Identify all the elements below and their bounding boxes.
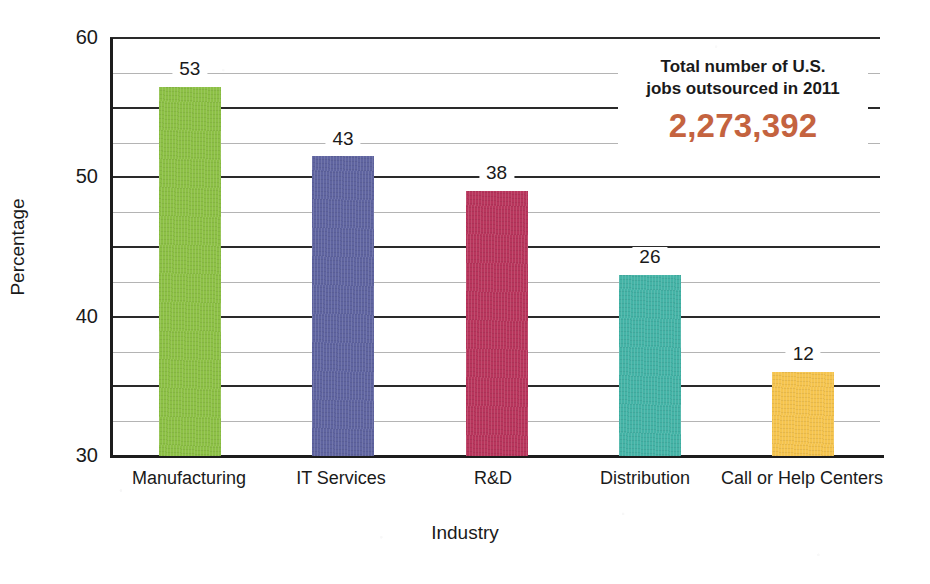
x-axis-tick-label: Call or Help Centers (721, 468, 883, 489)
total-jobs-annotation: Total number of U.S. jobs outsourced in … (618, 52, 868, 151)
x-axis-tick-label: R&D (417, 468, 569, 489)
y-axis-tick-label: 40 (76, 304, 98, 327)
y-axis-title: Percentage (7, 198, 29, 295)
y-axis-line (110, 38, 113, 456)
y-axis-tick-label: 60 (76, 26, 98, 49)
bar-value-label: 26 (632, 247, 667, 267)
bar[interactable] (312, 156, 374, 456)
x-axis-title: Industry (0, 522, 930, 544)
bar-value-label: 12 (786, 344, 821, 364)
bar-slot: 53 (113, 38, 266, 456)
bar-value-label: 38 (479, 163, 514, 183)
bar[interactable] (159, 87, 221, 456)
bar-texture (466, 191, 528, 456)
y-axis-tick-label: 50 (76, 165, 98, 188)
bar[interactable] (619, 275, 681, 456)
bar[interactable] (772, 372, 834, 456)
bar[interactable] (466, 191, 528, 456)
annotation-line-2: jobs outsourced in 2011 (624, 78, 862, 100)
x-axis-tick-label: Manufacturing (113, 468, 265, 489)
bar-texture (312, 156, 374, 456)
bar-value-label: 53 (172, 59, 207, 79)
x-axis-tick-labels: ManufacturingIT ServicesR&DDistributionC… (113, 468, 883, 489)
x-axis-tick-label: Distribution (569, 468, 721, 489)
bar-slot: 43 (266, 38, 419, 456)
annotation-total-value: 2,273,392 (624, 107, 862, 145)
bar-texture (159, 87, 221, 456)
annotation-line-1: Total number of U.S. (624, 56, 862, 78)
bar-value-label: 43 (326, 129, 361, 149)
x-axis-tick-label: IT Services (265, 468, 417, 489)
bar-chart-figure: Percentage 0102030405060 5343382612 Manu… (0, 0, 930, 584)
bar-texture (772, 372, 834, 456)
bar-texture (619, 275, 681, 456)
bar-slot: 38 (420, 38, 573, 456)
y-axis-tick-label: 30 (76, 444, 98, 467)
